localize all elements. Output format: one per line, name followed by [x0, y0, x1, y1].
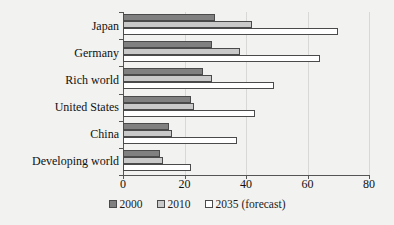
gridline-80: [369, 12, 370, 175]
value-tick-label-80: 80: [354, 178, 384, 190]
value-tick-label-60: 60: [293, 178, 323, 190]
category-label: Developing world: [32, 155, 119, 167]
bar: [123, 157, 163, 164]
bar: [123, 130, 172, 137]
category-label: Germany: [74, 47, 119, 59]
bar-group: [123, 121, 369, 148]
legend-item: 2010: [157, 198, 191, 210]
bar-group: [123, 94, 369, 121]
bar: [123, 55, 320, 62]
bar: [123, 164, 191, 171]
bar: [123, 28, 338, 35]
chart-legend: 200020102035 (forecast): [0, 198, 394, 210]
bar: [123, 110, 255, 117]
bar: [123, 21, 252, 28]
bar: [123, 137, 237, 144]
category-label: Japan: [92, 20, 119, 32]
legend-label: 2035 (forecast): [216, 198, 286, 210]
bar: [123, 41, 212, 48]
bar: [123, 82, 274, 89]
bar: [123, 96, 191, 103]
legend-swatch-icon: [109, 200, 117, 208]
bar: [123, 150, 160, 157]
bar: [123, 103, 194, 110]
bar: [123, 14, 215, 21]
legend-item: 2035 (forecast): [205, 198, 286, 210]
bar-group: [123, 39, 369, 66]
category-label: United States: [55, 101, 119, 113]
category-label: China: [90, 128, 119, 140]
bar-group: [123, 66, 369, 93]
value-tick-label-40: 40: [231, 178, 261, 190]
legend-label: 2010: [168, 198, 191, 210]
bar: [123, 75, 212, 82]
legend-label: 2000: [120, 198, 143, 210]
bar-chart: JapanGermanyRich worldUnited StatesChina…: [0, 0, 394, 225]
plot-area: [123, 12, 369, 175]
bar-group: [123, 148, 369, 175]
bar: [123, 123, 169, 130]
legend-item: 2000: [109, 198, 143, 210]
bar: [123, 48, 240, 55]
legend-swatch-icon: [157, 200, 165, 208]
value-tick-label-0: 0: [108, 178, 138, 190]
bar-group: [123, 12, 369, 39]
legend-swatch-icon: [205, 200, 213, 208]
value-tick-label-20: 20: [170, 178, 200, 190]
bar: [123, 68, 203, 75]
category-label: Rich world: [65, 74, 119, 86]
